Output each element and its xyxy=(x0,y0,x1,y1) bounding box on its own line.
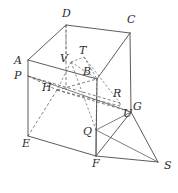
vertex-label-p: P xyxy=(14,70,21,81)
edge-h-u-hidden xyxy=(57,90,120,106)
edge-e-f xyxy=(28,136,96,156)
vertex-label-r: R xyxy=(113,88,121,99)
vertex-label-h: H xyxy=(42,82,52,93)
geometry-diagram-svg xyxy=(0,0,178,193)
vertex-label-e: E xyxy=(22,138,30,149)
vertex-label-t: T xyxy=(79,45,86,56)
vertex-label-b: B xyxy=(83,66,91,77)
edge-h-e-hidden xyxy=(28,90,57,136)
vertex-label-g: G xyxy=(133,101,142,112)
vertex-label-a: A xyxy=(14,55,22,66)
vertex-label-d: D xyxy=(62,8,71,19)
vertex-label-v: V xyxy=(60,53,68,64)
edge-d-c xyxy=(66,25,130,33)
edge-v-t-hidden xyxy=(71,57,84,62)
geometry-figure: D C T A V B P H R G U E Q F S xyxy=(0,0,178,193)
vertex-label-c: C xyxy=(127,14,135,25)
edge-v-h-hidden xyxy=(57,62,71,90)
vertex-label-u: U xyxy=(123,108,132,119)
edge-c-g xyxy=(130,33,131,112)
edge-b-c xyxy=(97,33,130,79)
vertex-label-f: F xyxy=(92,158,100,169)
vertex-label-q: Q xyxy=(83,126,92,137)
vertex-label-s: S xyxy=(164,160,172,171)
edge-g-s xyxy=(131,112,158,162)
